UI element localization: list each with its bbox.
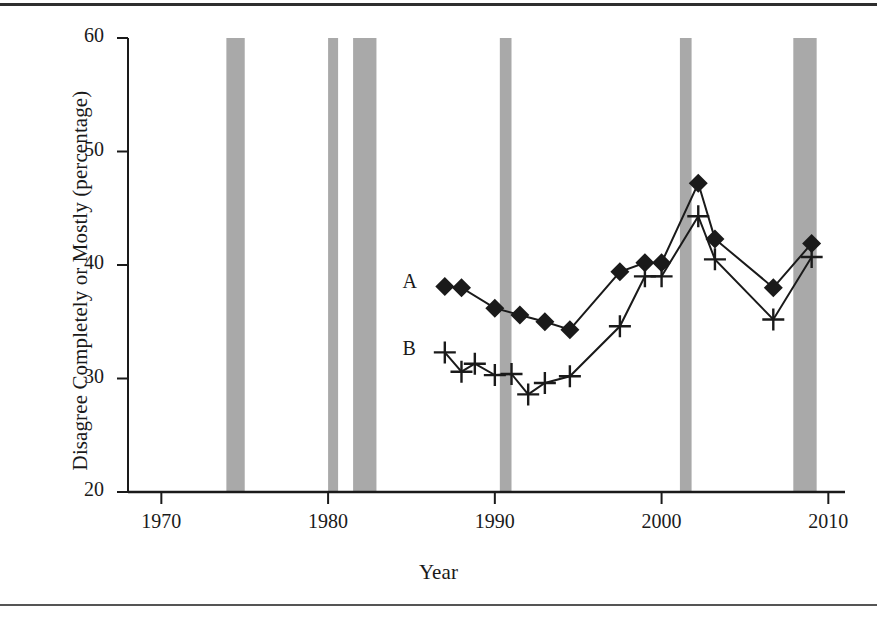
series-a-label: A — [402, 270, 416, 293]
x-tick-label: 1970 — [116, 510, 206, 533]
data-point-marker-a — [452, 278, 471, 297]
recession-band — [793, 38, 816, 492]
x-tick-label: 2010 — [783, 510, 873, 533]
x-tick-label: 1980 — [283, 510, 373, 533]
data-point-marker-a — [535, 312, 554, 331]
y-tick-label: 30 — [44, 365, 104, 388]
data-point-marker-a — [510, 305, 529, 324]
data-point-marker-b — [534, 372, 556, 394]
y-tick-label: 60 — [44, 24, 104, 47]
y-axis-title: Disagree Completely or Mostly (percentag… — [68, 21, 93, 541]
recession-band — [353, 38, 376, 492]
x-tick-label: 1990 — [450, 510, 540, 533]
data-point-marker-a — [689, 174, 708, 193]
y-tick-label: 20 — [44, 478, 104, 501]
recession-band — [226, 38, 244, 492]
recession-band — [680, 38, 692, 492]
y-tick-label: 50 — [44, 138, 104, 161]
data-point-marker-a — [435, 277, 454, 296]
axes-group — [117, 38, 845, 504]
recession-band — [500, 38, 512, 492]
x-tick-label: 2000 — [617, 510, 707, 533]
data-point-marker-b — [651, 265, 673, 287]
figure-container: Disagree Completely or Mostly (percentag… — [0, 0, 877, 625]
recession-bands-group — [226, 38, 816, 492]
data-series-group — [434, 174, 823, 406]
y-tick-label: 40 — [44, 251, 104, 274]
data-point-marker-b — [517, 383, 539, 405]
x-axis-title: Year — [0, 560, 877, 585]
series-b-label: B — [402, 337, 415, 360]
recession-band — [328, 38, 338, 492]
